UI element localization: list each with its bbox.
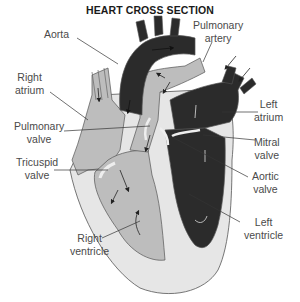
label-tricuspid-valve: Tricuspid valve	[16, 156, 58, 182]
label-aortic-valve: Aortic valve	[252, 170, 279, 196]
label-right-ventricle: Right ventricle	[70, 232, 109, 258]
label-pulmonary-valve: Pulmonary valve	[14, 120, 64, 146]
label-left-atrium: Left atrium	[254, 98, 283, 124]
label-right-atrium: Right atrium	[15, 71, 44, 97]
label-pulmonary-artery: Pulmonary artery	[193, 19, 243, 45]
label-left-ventricle: Left ventricle	[244, 216, 283, 242]
label-mitral-valve: Mitral valve	[254, 136, 280, 162]
label-aorta: Aorta	[44, 28, 69, 41]
